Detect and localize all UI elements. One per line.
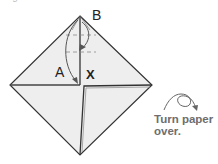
turn-paper-instruction: Turn paper over. <box>154 113 218 137</box>
label-x: X <box>86 68 95 81</box>
label-b: B <box>92 8 101 22</box>
label-a: A <box>55 65 64 79</box>
instruction-line-2: over. <box>154 125 218 137</box>
origami-fold-diagram <box>0 0 218 164</box>
instruction-line-1: Turn paper <box>154 113 218 125</box>
turn-over-icon <box>164 94 198 111</box>
